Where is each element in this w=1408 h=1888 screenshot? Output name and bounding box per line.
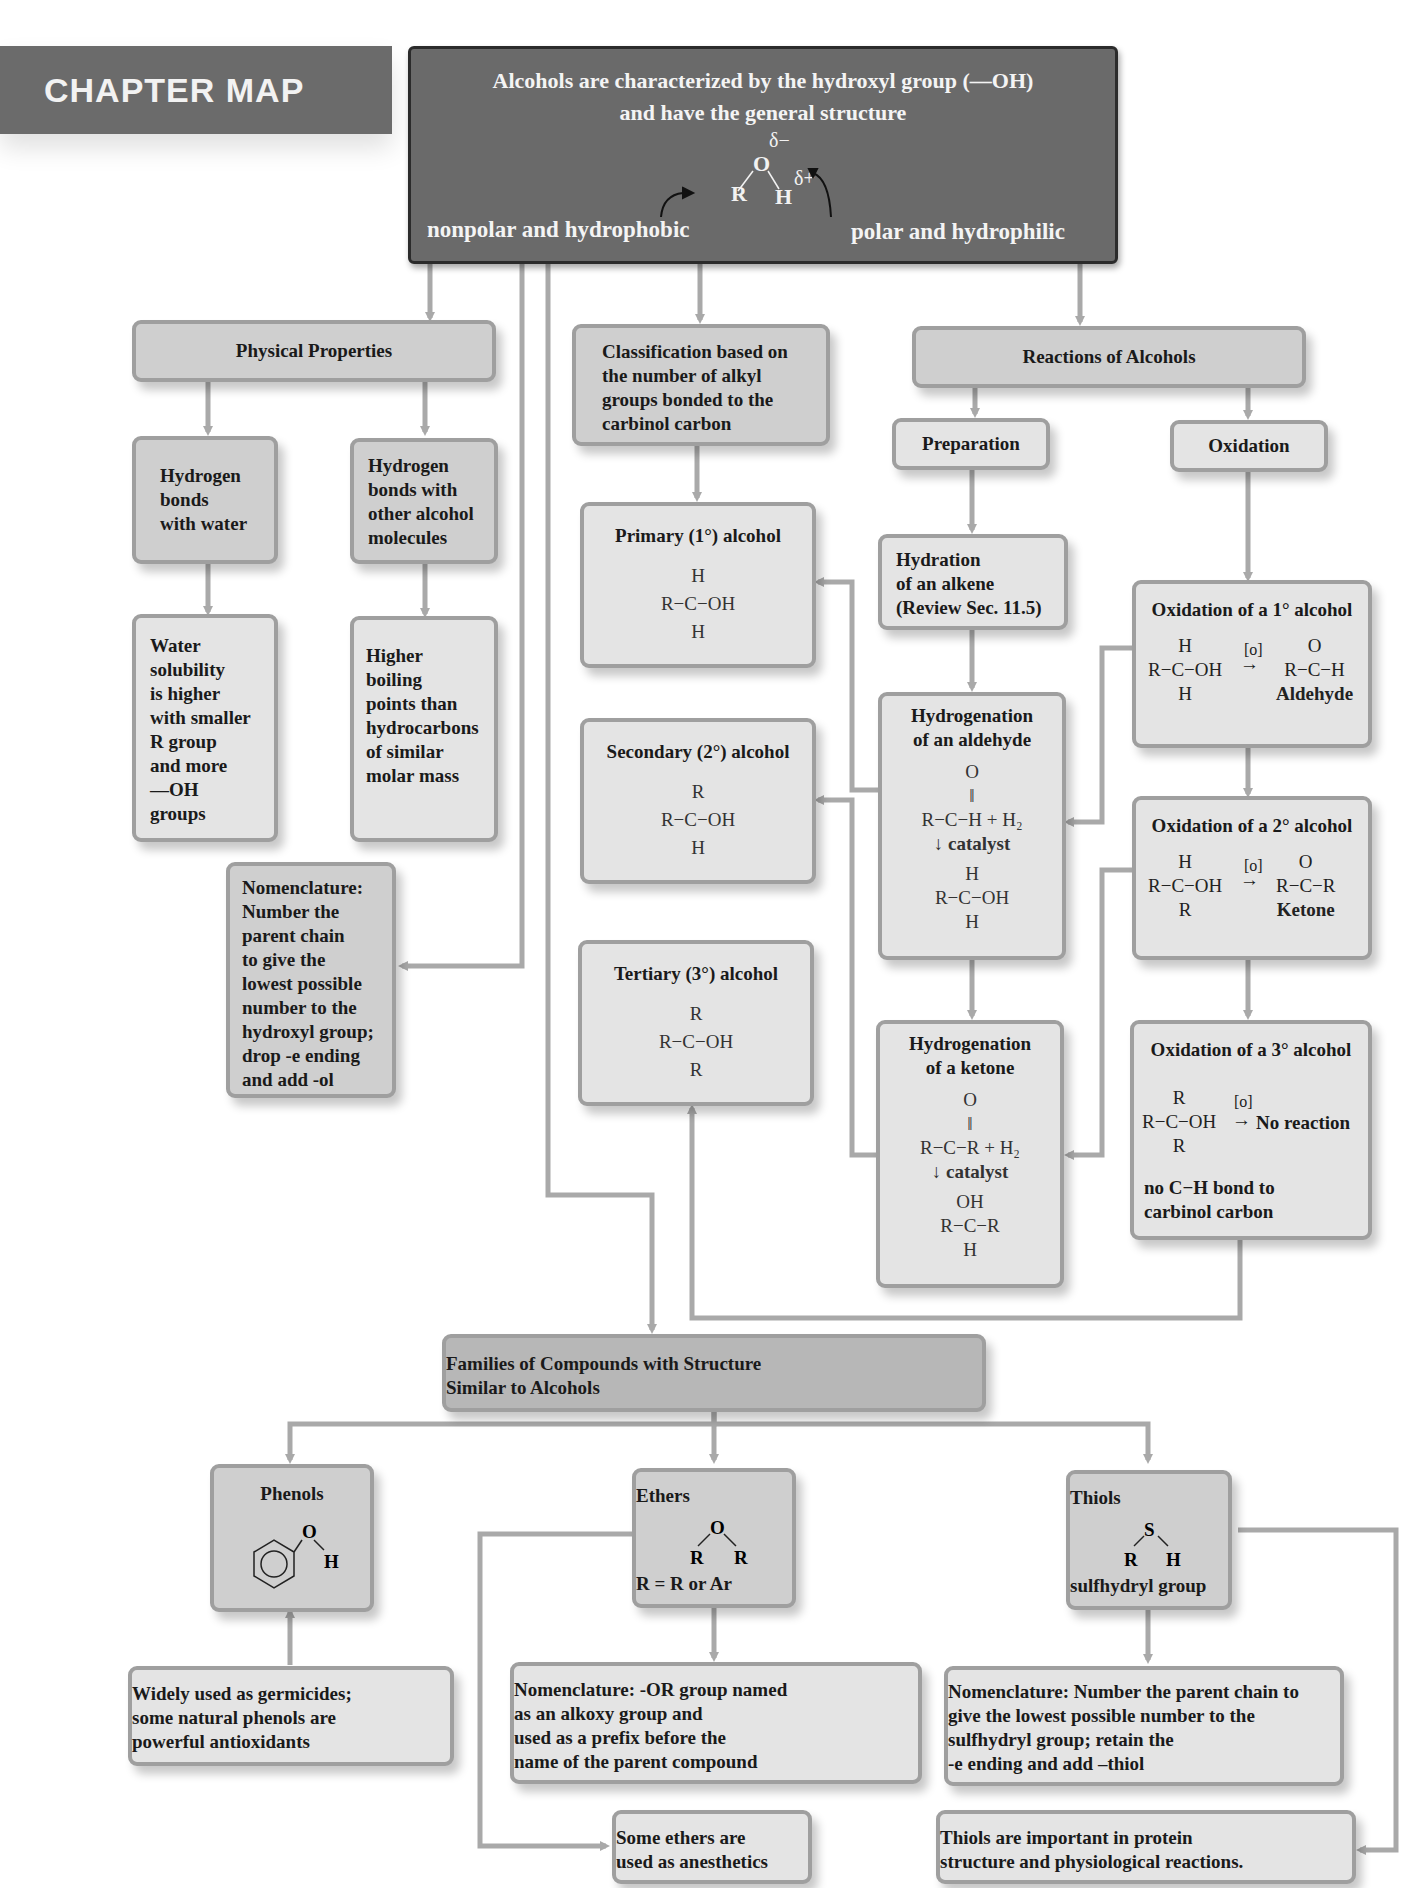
hydration-box: Hydrationof an alkene(Review Sec. 11.5) (878, 534, 1068, 630)
hydrogenation-ketone-box: Hydrogenationof a ketone O‖R−C−R + H₂ ↓ … (876, 1020, 1064, 1288)
primary-alcohol-title: Primary (1°) alcohol (584, 524, 812, 548)
oxidation-box: Oxidation (1170, 420, 1328, 472)
svg-text:R: R (734, 1547, 748, 1568)
water-solubility-box: Watersolubilityis higherwith smallerR gr… (132, 614, 278, 842)
ether-structure-icon: O R R (676, 1512, 760, 1572)
reactions-title: Reactions of Alcohols (1022, 345, 1195, 369)
svg-text:O: O (710, 1517, 725, 1538)
hydrogenation-aldehyde-box: Hydrogenationof an aldehyde O‖R−C−H + H₂… (878, 692, 1066, 960)
thiols-nomenclature-box: Nomenclature: Number the parent chain to… (944, 1666, 1344, 1786)
svg-text:R: R (1124, 1549, 1138, 1570)
reactions-box: Reactions of Alcohols (912, 326, 1306, 388)
svg-text:H: H (1166, 1549, 1181, 1570)
ethers-note-box: Some ethers areused as anesthetics (612, 1810, 812, 1884)
physical-properties-box: Physical Properties (132, 320, 496, 382)
alcohol-nomenclature-box: Nomenclature:Number theparent chainto gi… (226, 862, 396, 1098)
oxidation-primary-box: Oxidation of a 1° alcohol HR−C−OHH [o] →… (1132, 580, 1372, 748)
nonpolar-label: nonpolar and hydrophobic (427, 217, 690, 243)
oxidation-tertiary-box: Oxidation of a 3° alcohol RR−C−OHR [o] →… (1130, 1020, 1372, 1240)
tertiary-alcohol-box: Tertiary (3°) alcohol RR−C−OHR (578, 940, 814, 1106)
ethers-box: Ethers O R R R = R or Ar (632, 1468, 796, 1608)
alcohol-definition-box: Alcohols are characterized by the hydrox… (408, 46, 1118, 264)
svg-text:δ−: δ− (769, 129, 790, 151)
svg-text:H: H (324, 1551, 339, 1572)
svg-text:O: O (753, 151, 770, 176)
svg-text:O: O (302, 1521, 317, 1542)
hbond-alcohol-box: Hydrogenbonds withother alcoholmolecules (350, 438, 498, 564)
structure-r: R (731, 181, 748, 206)
svg-text:R: R (690, 1547, 704, 1568)
svg-text:S: S (1144, 1519, 1155, 1540)
boiling-point-box: Higherboilingpoints thanhydrocarbonsof s… (350, 616, 498, 842)
physical-properties-title: Physical Properties (236, 339, 392, 363)
secondary-alcohol-title: Secondary (2°) alcohol (584, 740, 812, 764)
phenol-structure-icon: O H (234, 1512, 354, 1592)
oxidation-secondary-box: Oxidation of a 2° alcohol HR−C−OHR [o] →… (1132, 796, 1372, 960)
preparation-box: Preparation (892, 418, 1050, 470)
phenols-box: Phenols O H (210, 1464, 374, 1612)
thiol-structure-icon: S R H (1110, 1512, 1194, 1572)
phenols-note-box: Widely used as germicides;some natural p… (128, 1666, 454, 1766)
tertiary-alcohol-title: Tertiary (3°) alcohol (582, 962, 810, 986)
ethers-nomenclature-box: Nomenclature: -OR group namedas an alkox… (510, 1662, 922, 1784)
svg-text:H: H (775, 184, 792, 209)
hbond-water-box: Hydrogenbondswith water (132, 436, 278, 564)
families-box: Families of Compounds with StructureSimi… (442, 1334, 986, 1412)
secondary-alcohol-box: Secondary (2°) alcohol RR−C−OHH (580, 718, 816, 884)
thiols-note-box: Thiols are important in proteinstructure… (936, 1810, 1356, 1884)
classification-box: Classification based onthe number of alk… (572, 324, 830, 446)
thiols-box: Thiols S R H sulfhydryl group (1066, 1470, 1232, 1610)
primary-alcohol-box: Primary (1°) alcohol HR−C−OHH (580, 502, 816, 668)
polar-label: polar and hydrophilic (851, 219, 1065, 245)
